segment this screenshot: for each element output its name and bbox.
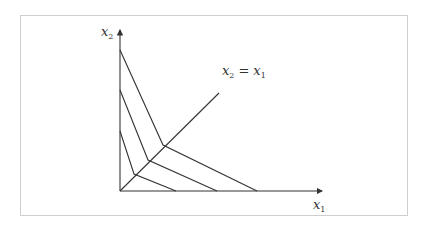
diagram-canvas — [0, 0, 427, 231]
diagonal-label: x2=x1 — [222, 64, 266, 80]
diagonal-line — [120, 93, 219, 191]
y-axis-label: x2 — [101, 25, 113, 41]
x-axis-label: x1 — [313, 198, 325, 214]
